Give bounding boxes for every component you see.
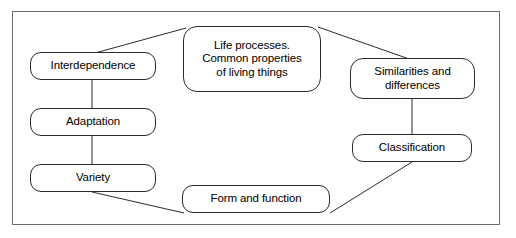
node-similarities-and-differences[interactable]: Similarities and differences <box>350 58 475 99</box>
node-classification-label: Classification <box>379 141 445 155</box>
node-variety-label: Variety <box>76 171 110 185</box>
node-life-processes[interactable]: Life processes. Common properties of liv… <box>183 26 321 92</box>
node-interdependence[interactable]: Interdependence <box>30 52 156 80</box>
node-life-processes-label: Life processes. Common properties of liv… <box>202 39 301 80</box>
node-adaptation[interactable]: Adaptation <box>30 108 156 136</box>
node-variety[interactable]: Variety <box>30 164 156 192</box>
node-adaptation-label: Adaptation <box>66 115 120 129</box>
diagram-canvas: Life processes. Common properties of liv… <box>0 0 516 238</box>
node-classification[interactable]: Classification <box>352 134 472 162</box>
node-interdependence-label: Interdependence <box>51 59 136 73</box>
node-form-and-function-label: Form and function <box>211 192 302 206</box>
node-form-and-function[interactable]: Form and function <box>182 185 330 213</box>
node-similarities-and-differences-label: Similarities and differences <box>374 65 450 92</box>
